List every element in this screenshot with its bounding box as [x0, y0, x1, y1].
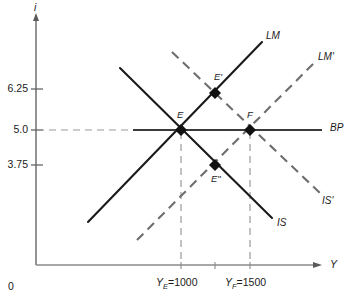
point-label-f: F — [247, 110, 253, 120]
curve-label-is: IS — [277, 218, 286, 228]
x-tick-label-ye: YE=1000 — [156, 277, 198, 291]
point-label-e: E — [177, 110, 183, 120]
x-tick-yf-value: =1500 — [237, 276, 267, 288]
curve-label-lm: LM — [266, 31, 280, 41]
x-tick-ye-value: =1000 — [168, 276, 198, 288]
x-tick-label-yf: YF=1500 — [225, 277, 266, 291]
curve-label-is-prime: IS' — [322, 196, 333, 206]
chart-canvas — [0, 0, 351, 304]
y-tick-label-50: 5.0 — [0, 124, 28, 135]
curve-lm — [88, 42, 262, 222]
y-tick-label-375: 3.75 — [0, 159, 28, 170]
curve-is-prime — [172, 52, 320, 193]
x-tick-ye-base: Y — [156, 276, 163, 288]
x-axis-label: Y — [330, 259, 337, 270]
curve-lm-prime — [137, 62, 315, 240]
point-label-e-prime: E' — [214, 72, 222, 82]
curve-is — [120, 68, 272, 218]
marker-point-e-double-prime — [209, 159, 221, 171]
axes-group — [33, 13, 322, 268]
y-axis-label: i — [34, 2, 36, 13]
marker-point-f — [244, 124, 256, 136]
x-axis-arrow-icon — [313, 262, 322, 268]
origin-label: 0 — [8, 281, 14, 292]
curve-label-lm-prime: LM' — [318, 52, 334, 62]
curve-label-bp: BP — [330, 123, 343, 133]
y-tick-label-625: 6.25 — [0, 83, 28, 94]
guide-lines-group — [37, 130, 250, 262]
x-tick-yf-base: Y — [225, 276, 232, 288]
y-axis-arrow-icon — [33, 13, 39, 21]
marker-point-e — [175, 124, 187, 136]
is-lm-bp-diagram: i Y 0 6.25 5.0 3.75 YE=1000 YF=1500 LM L… — [0, 0, 351, 304]
point-label-e-double-prime: E" — [211, 174, 221, 184]
